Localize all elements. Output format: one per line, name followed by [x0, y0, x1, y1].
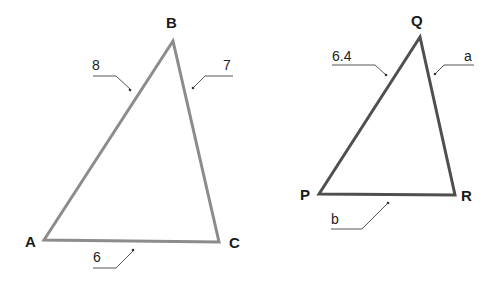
triangle-abc-shape: [44, 41, 219, 242]
side-bc-value: 7: [223, 57, 231, 73]
side-label-pq: 6.4: [332, 48, 387, 76]
triangle-abc: A B C 8 7 6: [25, 14, 240, 268]
vertex-label-c: C: [229, 234, 240, 251]
vertex-label-a: A: [25, 233, 36, 250]
side-ab-leader-dot: [129, 89, 132, 92]
side-pq-leader-dot: [385, 74, 388, 77]
side-label-bc: 7: [192, 57, 233, 89]
side-pq-leader-line: [332, 65, 386, 75]
side-bc-leader-dot: [192, 87, 195, 90]
side-ab-value: 8: [92, 57, 100, 73]
side-qr-leader-dot: [434, 73, 437, 76]
vertex-label-q: Q: [411, 12, 423, 29]
vertex-label-p: P: [300, 186, 310, 203]
side-label-pr: b: [331, 202, 389, 229]
triangles-diagram: A B C 8 7 6 P Q R 6.4: [0, 0, 498, 281]
side-pr-leader-line: [331, 204, 387, 229]
side-qr-value: a: [464, 48, 472, 64]
side-pr-value: b: [331, 211, 339, 227]
side-pq-value: 6.4: [332, 48, 352, 64]
side-qr-leader-line: [436, 65, 474, 73]
side-ac-value: 6: [93, 249, 101, 265]
vertex-label-r: R: [461, 187, 472, 204]
vertex-label-b: B: [166, 14, 177, 31]
side-label-ac: 6: [93, 249, 134, 268]
side-pr-leader-dot: [387, 202, 390, 205]
side-label-qr: a: [434, 48, 474, 75]
triangle-pqr: P Q R 6.4 a b: [300, 12, 474, 229]
side-ac-leader-dot: [132, 249, 135, 252]
side-bc-leader-line: [194, 76, 233, 87]
side-label-ab: 8: [92, 57, 131, 91]
side-ab-leader-line: [93, 76, 130, 89]
